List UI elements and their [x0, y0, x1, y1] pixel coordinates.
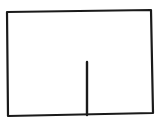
- background: [0, 0, 163, 120]
- sketch-canvas: [0, 0, 163, 120]
